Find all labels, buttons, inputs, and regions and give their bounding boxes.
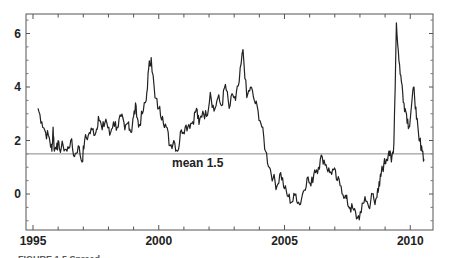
y-tick-label: 2: [14, 134, 21, 148]
time-series-chart: 0246 1995200020052010 mean 1.5: [0, 0, 449, 250]
figure-caption: FIGURE 1.5 Spread ...: [18, 252, 110, 258]
y-tick-label: 4: [14, 80, 21, 94]
plot-frame: [26, 14, 433, 230]
x-tick-label: 2010: [397, 234, 424, 248]
y-minor-ticks: [26, 20, 433, 221]
x-tick-label: 1995: [20, 234, 47, 248]
y-axis: 0246: [14, 27, 433, 202]
x-tick-label: 2005: [271, 234, 298, 248]
x-tick-label: 2000: [145, 234, 172, 248]
y-tick-label: 6: [14, 27, 21, 41]
mean-label: mean 1.5: [172, 156, 224, 170]
data-series-line: [38, 23, 424, 220]
y-tick-label: 0: [14, 187, 21, 201]
x-axis: 1995200020052010: [20, 14, 424, 248]
